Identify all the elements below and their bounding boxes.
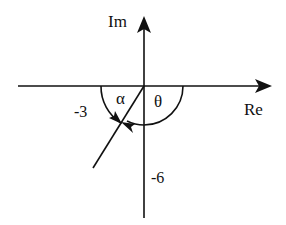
real-tick-label: -3: [74, 104, 87, 120]
complex-plane-diagram: Im Re -3 -6 α θ: [0, 0, 286, 225]
real-axis-label: Re: [244, 101, 263, 118]
imag-axis-label: Im: [108, 13, 127, 30]
alpha-label: α: [116, 90, 125, 107]
theta-label: θ: [154, 93, 162, 110]
imag-tick-label: -6: [151, 170, 164, 186]
